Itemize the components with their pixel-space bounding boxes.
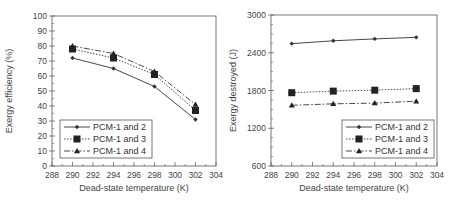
y-tick-label: 50 [38, 86, 48, 96]
x-axis-title: Dead-state temperature (K) [79, 183, 189, 193]
data-point-marker-triangle [413, 98, 419, 103]
data-point-marker-diamond [414, 35, 418, 39]
legend: PCM-1 and 2PCM-1 and 3PCM-1 and 4 [60, 120, 152, 158]
x-tick-label: 294 [326, 170, 340, 180]
exergy-efficiency-chart: 2882902922942962983003023040102030405060… [4, 11, 223, 193]
series-pcm-1-and-2 [70, 56, 197, 122]
x-tick-label: 288 [264, 170, 278, 180]
y-tick-label: 2400 [247, 48, 266, 58]
x-tick-label: 302 [409, 170, 423, 180]
x-tick-label: 298 [368, 170, 382, 180]
x-tick-label: 290 [65, 170, 79, 180]
x-tick-label: 304 [430, 170, 444, 180]
x-tick-label: 296 [127, 170, 141, 180]
data-point-marker-square [371, 87, 378, 94]
data-point-marker-diamond [331, 39, 335, 43]
x-tick-label: 298 [147, 170, 161, 180]
x-tick-label: 292 [86, 170, 100, 180]
y-axis-title: Exergy efficiency (%) [4, 49, 14, 133]
figure: 2882902922942962983003023040102030405060… [0, 0, 456, 206]
chart-canvas: 2882902922942962983003023040102030405060… [0, 0, 456, 206]
legend: PCM-1 and 2PCM-1 and 3PCM-1 and 4 [342, 120, 434, 158]
y-tick-label: 40 [38, 101, 48, 111]
x-tick-label: 290 [285, 170, 299, 180]
data-point-marker-diamond [290, 41, 294, 45]
y-tick-label: 90 [38, 26, 48, 36]
exergy-destroyed-chart: 2882902922942962983003023046001200180024… [228, 10, 444, 193]
data-point-marker-square [288, 89, 295, 96]
data-point-marker-square [413, 85, 420, 92]
y-tick-label: 20 [38, 131, 48, 141]
y-tick-label: 0 [42, 161, 47, 171]
y-tick-label: 10 [38, 146, 48, 156]
y-tick-label: 3000 [247, 10, 266, 20]
data-point-marker-square [192, 107, 199, 114]
y-tick-label: 70 [38, 56, 48, 66]
x-tick-label: 292 [305, 170, 319, 180]
x-tick-label: 296 [347, 170, 361, 180]
legend-marker-square [74, 136, 81, 143]
data-point-marker-diamond [70, 56, 74, 60]
legend-label: PCM-1 and 3 [375, 134, 428, 144]
y-tick-label: 100 [33, 11, 47, 21]
series-pcm-1-and-4 [289, 98, 420, 107]
x-tick-label: 304 [209, 170, 223, 180]
y-tick-label: 1200 [247, 123, 266, 133]
x-tick-label: 288 [45, 170, 59, 180]
legend-label: PCM-1 and 3 [93, 134, 146, 144]
series-pcm-1-and-3 [69, 46, 199, 115]
data-point-marker-diamond [373, 37, 377, 41]
x-tick-label: 302 [188, 170, 202, 180]
legend-label: PCM-1 and 4 [93, 146, 146, 156]
y-tick-label: 1800 [247, 86, 266, 96]
series-pcm-1-and-2 [290, 35, 419, 46]
x-tick-label: 300 [168, 170, 182, 180]
x-axis-title: Dead-state temperature (K) [299, 183, 409, 193]
y-tick-label: 600 [252, 161, 266, 171]
data-point-marker-square [330, 88, 337, 95]
legend-label: PCM-1 and 2 [375, 122, 428, 132]
series-pcm-1-and-3 [288, 85, 420, 96]
y-tick-label: 80 [38, 41, 48, 51]
y-tick-label: 60 [38, 71, 48, 81]
x-tick-label: 294 [106, 170, 120, 180]
series-pcm-1-and-4 [70, 43, 199, 107]
legend-label: PCM-1 and 2 [93, 122, 146, 132]
x-tick-label: 300 [388, 170, 402, 180]
y-tick-label: 30 [38, 116, 48, 126]
legend-marker-square [356, 136, 363, 143]
data-point-marker-diamond [111, 66, 115, 70]
data-point-marker-triangle [193, 102, 199, 107]
legend-label: PCM-1 and 4 [375, 146, 428, 156]
y-axis-title: Exergy destroyed (J) [228, 49, 238, 132]
